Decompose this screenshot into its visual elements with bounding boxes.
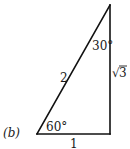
panel-label: (b)	[3, 126, 20, 140]
hypotenuse-edge	[37, 5, 110, 134]
height-label: √ 3	[112, 66, 127, 80]
angle-label-bottom-left: 60°	[46, 120, 67, 134]
hypotenuse-label: 2	[60, 71, 68, 85]
base-label: 1	[70, 137, 78, 149]
height-value: 3	[119, 66, 127, 80]
triangle-diagram: (b) 30° 60° 2 1 √ 3	[0, 0, 130, 149]
angle-label-top: 30°	[92, 39, 113, 53]
triangle	[37, 5, 110, 134]
